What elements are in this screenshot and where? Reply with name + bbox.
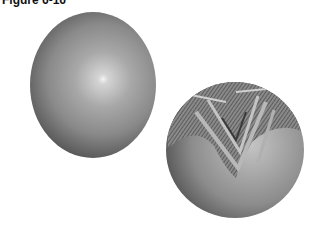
texture-mapped-sphere (166, 82, 304, 218)
figure-title: Figure 6-16 (2, 0, 66, 7)
texture-pattern (166, 82, 304, 218)
plain-shaded-sphere (30, 12, 156, 158)
